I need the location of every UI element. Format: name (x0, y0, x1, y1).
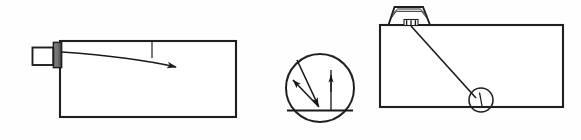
left-figure-group (33, 41, 237, 117)
center-detail-group (286, 54, 354, 122)
technical-drawing-canvas (0, 0, 581, 140)
detail-circle-outline (286, 54, 354, 122)
figure-sheet: Technical line drawing: tank with probe,… (0, 0, 581, 140)
left-probe-housing (33, 48, 54, 66)
left-tank-outline (60, 41, 236, 117)
